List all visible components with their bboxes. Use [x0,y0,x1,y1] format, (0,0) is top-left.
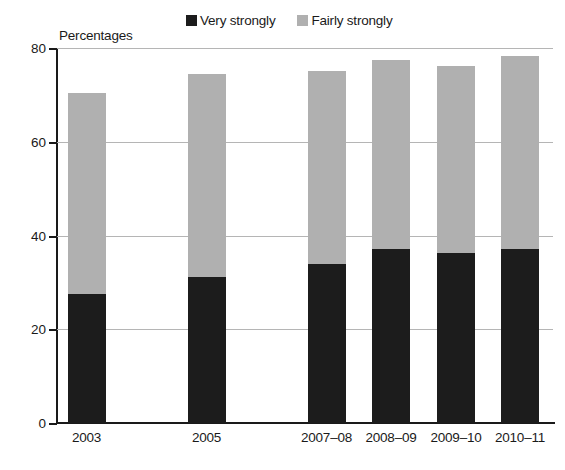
bar-2007–08 [308,71,346,424]
bar-2008–09 [372,60,410,423]
y-axis-tick [49,236,57,238]
gridline [56,142,553,143]
chart-legend: Very strongly Fairly strongly [186,13,392,28]
y-axis-tick-label: 40 [6,228,46,243]
bar-2010–11 [501,56,539,423]
bar-segment-very-strongly [437,253,475,423]
x-axis-tick-label: 2003 [47,430,127,445]
bar-segment-fairly-strongly [188,74,226,277]
x-axis-tick-label: 2010–11 [480,430,560,445]
gridline [56,48,553,49]
y-axis-tick-labels: 020406080 [0,0,46,470]
y-axis-tick [49,329,57,331]
y-axis-tick-label: 60 [6,134,46,149]
bar-segment-very-strongly [501,249,539,423]
y-axis-tick-label: 0 [6,416,46,431]
bar-2005 [188,74,226,423]
bar-segment-fairly-strongly [372,60,410,248]
legend-label-very-strongly: Very strongly [200,13,275,28]
legend-swatch-fairly-strongly-icon [297,15,308,26]
bar-segment-very-strongly [372,249,410,423]
gridline [56,329,553,330]
x-axis-tick-label: 2005 [167,430,247,445]
bar-segment-very-strongly [308,264,346,423]
bar-segment-fairly-strongly [68,93,106,295]
gridline [56,236,553,237]
y-axis-tick [49,423,57,425]
y-axis-unit-label: Percentages [59,28,133,43]
legend-item-fairly-strongly: Fairly strongly [297,13,392,28]
y-axis-tick [49,48,57,50]
bar-segment-fairly-strongly [501,56,539,249]
bar-2003 [68,93,106,423]
bar-2009–10 [437,66,475,423]
bar-segment-very-strongly [188,277,226,423]
bar-segment-fairly-strongly [308,71,346,265]
legend-item-very-strongly: Very strongly [186,13,275,28]
plot-area [56,48,553,423]
legend-label-fairly-strongly: Fairly strongly [311,13,392,28]
y-axis-tick [49,142,57,144]
legend-swatch-very-strongly-icon [186,15,197,26]
y-axis-tick-label: 80 [6,41,46,56]
stacked-bar-chart: Very strongly Fairly strongly Percentage… [0,0,565,470]
bar-segment-fairly-strongly [437,66,475,254]
y-axis-tick-label: 20 [6,322,46,337]
bar-segment-very-strongly [68,294,106,423]
